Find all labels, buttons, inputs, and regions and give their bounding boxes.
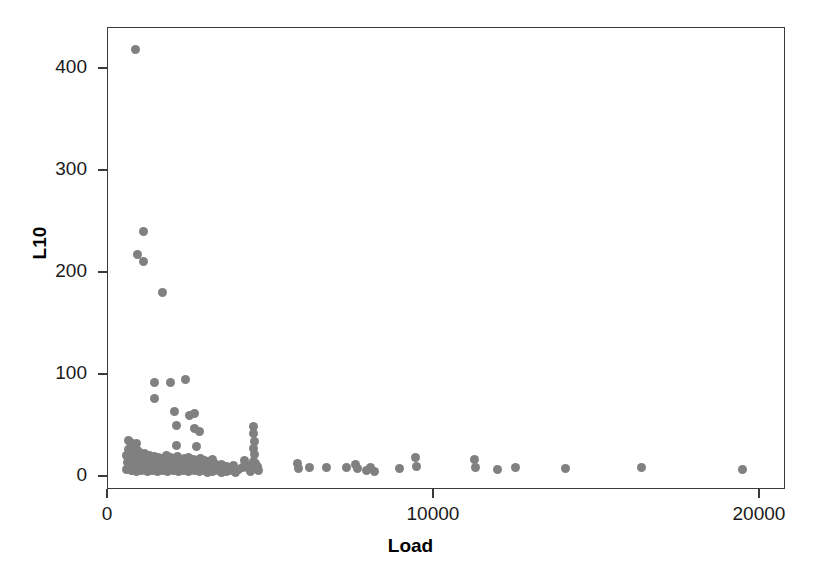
data-point bbox=[139, 257, 148, 266]
x-tick-label: 20000 bbox=[699, 503, 819, 525]
data-point bbox=[561, 464, 570, 473]
data-point bbox=[172, 441, 181, 450]
data-point bbox=[342, 463, 351, 472]
data-point bbox=[150, 378, 159, 387]
data-point bbox=[353, 464, 362, 473]
data-point bbox=[322, 463, 331, 472]
data-point bbox=[181, 375, 190, 384]
y-tick-mark bbox=[98, 373, 107, 375]
data-point bbox=[412, 462, 421, 471]
data-point bbox=[738, 465, 747, 474]
x-axis-title: Load bbox=[0, 535, 821, 557]
data-point bbox=[172, 421, 181, 430]
data-point bbox=[192, 442, 201, 451]
data-point bbox=[637, 463, 646, 472]
data-points-layer bbox=[108, 28, 784, 488]
data-point bbox=[294, 464, 303, 473]
data-point bbox=[131, 45, 140, 54]
y-tick-label: 100 bbox=[2, 362, 87, 384]
data-point bbox=[139, 227, 148, 236]
y-axis-title: L10 bbox=[29, 213, 51, 273]
data-point bbox=[511, 463, 520, 472]
x-tick-label: 10000 bbox=[373, 503, 493, 525]
y-tick-label: 400 bbox=[2, 56, 87, 78]
y-tick-mark bbox=[98, 475, 107, 477]
plot-frame bbox=[107, 27, 785, 489]
data-point bbox=[411, 453, 420, 462]
data-point bbox=[395, 464, 404, 473]
data-point bbox=[166, 378, 175, 387]
x-tick-mark bbox=[432, 489, 434, 498]
data-point bbox=[170, 407, 179, 416]
data-point bbox=[493, 465, 502, 474]
data-point bbox=[190, 409, 199, 418]
data-point bbox=[471, 463, 480, 472]
y-tick-mark bbox=[98, 169, 107, 171]
scatter-plot-figure: 0100200300400 01000020000 Load L10 bbox=[0, 0, 821, 575]
y-tick-mark bbox=[98, 67, 107, 69]
y-tick-label: 0 bbox=[2, 464, 87, 486]
x-tick-mark bbox=[758, 489, 760, 498]
x-tick-mark bbox=[106, 489, 108, 498]
x-tick-label: 0 bbox=[47, 503, 167, 525]
data-point bbox=[195, 427, 204, 436]
data-point bbox=[158, 288, 167, 297]
data-point bbox=[150, 394, 159, 403]
y-tick-mark bbox=[98, 271, 107, 273]
y-tick-label: 300 bbox=[2, 158, 87, 180]
data-point bbox=[240, 456, 249, 465]
data-point bbox=[370, 467, 379, 476]
data-point bbox=[305, 463, 314, 472]
